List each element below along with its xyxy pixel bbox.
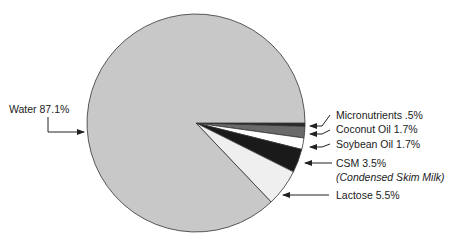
soybean-oil-arrow xyxy=(310,144,330,147)
label-lactose: Lactose 5.5% xyxy=(336,189,400,201)
coconut-oil-arrow xyxy=(310,130,330,134)
water-arrow xyxy=(48,117,84,132)
label-soybean-oil: Soybean Oil 1.7% xyxy=(336,138,420,150)
pie-slices xyxy=(87,14,305,232)
label-micronutrients: Micronutrients .5% xyxy=(336,109,423,121)
label-csm: CSM 3.5% xyxy=(336,157,386,169)
micronutrients-arrow xyxy=(310,115,330,126)
label-coconut-oil: Coconut Oil 1.7% xyxy=(336,123,418,135)
label-water: Water 87.1% xyxy=(9,103,69,115)
label-csm-note: (Condensed Skim Milk) xyxy=(336,171,445,183)
